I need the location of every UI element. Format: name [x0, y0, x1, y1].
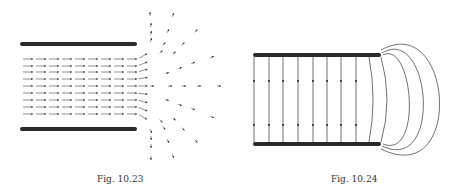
- arrow-head: [135, 85, 137, 87]
- arrow-head: [83, 65, 85, 67]
- arrow-head: [109, 113, 111, 115]
- arrow-head: [83, 85, 85, 87]
- arrow-mark: [282, 80, 284, 82]
- arrow-head: [184, 85, 186, 87]
- arrow-head: [96, 65, 98, 67]
- arrow-head: [152, 85, 154, 87]
- arrow-head: [96, 71, 98, 73]
- arrow-head: [44, 71, 46, 73]
- arrow-head: [44, 106, 46, 108]
- arrow-head: [109, 78, 111, 80]
- field-arrows: [23, 12, 221, 160]
- arrow-head: [199, 85, 201, 87]
- arrow-head: [150, 131, 152, 133]
- arrow-head: [109, 58, 111, 60]
- arrow-head: [31, 99, 33, 101]
- arrow-head: [109, 92, 111, 94]
- arrow-head: [122, 78, 124, 80]
- arrow-head: [31, 92, 33, 94]
- arrow-head: [44, 58, 46, 60]
- arrow-head: [31, 78, 33, 80]
- arrow-head: [150, 38, 152, 40]
- arrow-head: [57, 58, 59, 60]
- arrow-head: [146, 93, 148, 95]
- arrow-head: [44, 92, 46, 94]
- arrow-head: [57, 106, 59, 108]
- arrow-head: [219, 85, 221, 87]
- arrow-head: [122, 85, 124, 87]
- arrow-head: [70, 106, 72, 108]
- arrow-head: [83, 92, 85, 94]
- arrow-head: [96, 92, 98, 94]
- figure-10-24: [235, 0, 470, 192]
- arrow-mark: [355, 124, 357, 126]
- caption-fig-10-24: Fig. 10.24: [331, 174, 377, 184]
- arrow-head: [44, 85, 46, 87]
- arrow-head: [135, 58, 137, 60]
- arrow-head: [57, 92, 59, 94]
- arrow-head: [44, 99, 46, 101]
- arrow-head: [109, 85, 111, 87]
- arrow-head: [96, 78, 98, 80]
- arrow-mark: [297, 124, 299, 126]
- arrow-head: [31, 58, 33, 60]
- arrow-head: [70, 92, 72, 94]
- arrow-head: [83, 71, 85, 73]
- arrow-head: [150, 158, 152, 160]
- arrow-mark: [340, 80, 342, 82]
- arrow-head: [146, 85, 148, 87]
- arrow-head: [96, 106, 98, 108]
- arrow-head: [57, 113, 59, 115]
- arrow-head: [135, 78, 137, 80]
- arrow-head: [57, 99, 59, 101]
- arrow-head: [135, 65, 137, 67]
- bottom-plate: [20, 127, 137, 131]
- arrow-head: [31, 85, 33, 87]
- arrow-head: [57, 71, 59, 73]
- arrow-mark: [268, 124, 270, 126]
- arrow-mark: [253, 80, 255, 82]
- field-loop: [382, 49, 423, 149]
- arrow-head: [96, 113, 98, 115]
- arrow-head: [31, 113, 33, 115]
- field-loop: [381, 44, 440, 155]
- arrow-head: [44, 65, 46, 67]
- arrow-head: [70, 85, 72, 87]
- arrow-head: [135, 99, 137, 101]
- arrow-head: [135, 113, 137, 115]
- arrow-head: [170, 85, 172, 87]
- arrow-head: [70, 99, 72, 101]
- arrow-head: [57, 65, 59, 67]
- arrow-head: [70, 58, 72, 60]
- arrow-head: [122, 113, 124, 115]
- arrow-head: [31, 71, 33, 73]
- arrow-head: [83, 113, 85, 115]
- figure-10-23: [0, 0, 235, 192]
- arrow-mark: [340, 124, 342, 126]
- field-lines: [253, 44, 440, 155]
- arrow-head: [83, 78, 85, 80]
- arrow-head: [122, 65, 124, 67]
- field-loop: [369, 57, 373, 142]
- arrow-head: [135, 92, 137, 94]
- arrow-head: [31, 65, 33, 67]
- arrow-head: [145, 101, 147, 103]
- arrow-head: [150, 23, 152, 25]
- arrow-mark: [312, 80, 314, 82]
- arrow-head: [44, 78, 46, 80]
- arrow-mark: [326, 80, 328, 82]
- arrow-head: [70, 78, 72, 80]
- arrow-head: [122, 92, 124, 94]
- arrow-head: [83, 58, 85, 60]
- arrow-mark: [268, 80, 270, 82]
- arrow-head: [70, 113, 72, 115]
- arrow-head: [135, 106, 137, 108]
- arrow-head: [96, 99, 98, 101]
- arrow-head: [57, 85, 59, 87]
- bottom-plate: [253, 142, 381, 146]
- field-loop: [381, 57, 387, 142]
- arrow-head: [109, 71, 111, 73]
- arrow-head: [31, 106, 33, 108]
- arrow-head: [135, 71, 137, 73]
- arrow-head: [109, 99, 111, 101]
